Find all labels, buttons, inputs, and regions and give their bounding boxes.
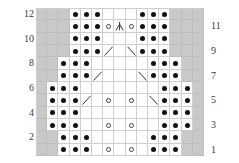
purl-dot-icon — [162, 98, 167, 103]
purl-dot-icon — [50, 123, 55, 128]
purl-dot-icon — [84, 147, 89, 152]
chart-cell-2-10 — [137, 131, 148, 143]
dot-symbol — [58, 57, 69, 69]
dot-symbol — [58, 70, 69, 82]
purl-dot-icon — [173, 61, 178, 66]
dot-symbol — [70, 119, 81, 131]
purl-dot-icon — [84, 61, 89, 66]
dot-symbol — [159, 144, 170, 156]
purl-dot-icon — [173, 147, 178, 152]
chart-cell-12-9 — [126, 8, 137, 20]
chart-cell-6-9 — [126, 82, 137, 94]
ring-symbol — [126, 20, 137, 32]
chart-cell-4-7 — [103, 107, 114, 119]
chart-cell-1-6 — [92, 144, 103, 156]
dot-symbol — [81, 45, 92, 57]
purl-dot-icon — [162, 12, 167, 17]
purl-dot-icon — [173, 110, 178, 115]
ring-symbol — [126, 119, 137, 131]
dot-symbol — [81, 144, 92, 156]
purl-dot-icon — [73, 49, 78, 54]
chart-cell-1-2 — [47, 144, 58, 156]
chart-cell-6-8 — [114, 82, 125, 94]
chart-cell-10-9 — [126, 33, 137, 45]
dot-symbol — [148, 144, 159, 156]
dot-symbol — [70, 107, 81, 119]
chart-cell-9-8 — [114, 45, 125, 57]
dot-symbol — [159, 70, 170, 82]
chart-cell-12-13 — [170, 8, 181, 20]
dot-symbol — [70, 82, 81, 94]
purl-dot-icon — [140, 12, 145, 17]
dot-symbol — [47, 82, 58, 94]
row-label-left-8: 8 — [29, 57, 34, 69]
purl-dot-icon — [73, 123, 78, 128]
purl-dot-icon — [151, 73, 156, 78]
purl-dot-icon — [185, 110, 190, 115]
chart-cell-2-2 — [47, 131, 58, 143]
dot-symbol — [70, 94, 81, 106]
purl-dot-icon — [140, 49, 145, 54]
purl-dot-icon — [151, 147, 156, 152]
chart-cell-7-1 — [36, 70, 47, 82]
chart-cell-8-2 — [47, 57, 58, 69]
dot-symbol — [92, 33, 103, 45]
dot-symbol — [81, 131, 92, 143]
chart-cell-4-10 — [137, 107, 148, 119]
diag-left-symbol — [137, 70, 148, 82]
purl-dot-icon — [73, 110, 78, 115]
dot-symbol — [159, 82, 170, 94]
chart-cell-9-15 — [193, 45, 204, 57]
chart-cell-6-7 — [103, 82, 114, 94]
chart-cell-8-9 — [126, 57, 137, 69]
purl-dot-icon — [84, 73, 89, 78]
dot-symbol — [81, 70, 92, 82]
row-label-left-4: 4 — [29, 107, 34, 119]
chart-cell-2-9 — [126, 131, 137, 143]
purl-dot-icon — [61, 135, 66, 140]
dot-symbol — [159, 33, 170, 45]
purl-dot-icon — [151, 12, 156, 17]
purl-dot-icon — [84, 12, 89, 17]
purl-dot-icon — [61, 73, 66, 78]
chart-cell-8-15 — [193, 57, 204, 69]
dot-symbol — [137, 33, 148, 45]
ring-symbol — [103, 20, 114, 32]
chart-cell-9-1 — [36, 45, 47, 57]
dot-symbol — [92, 45, 103, 57]
dot-symbol — [58, 131, 69, 143]
chart-cell-3-15 — [193, 119, 204, 131]
purl-dot-icon — [140, 24, 145, 29]
purl-dot-icon — [173, 135, 178, 140]
yarn-over-ring-icon — [106, 123, 111, 128]
chart-cell-8-8 — [114, 57, 125, 69]
chart-cell-5-6 — [92, 94, 103, 106]
chart-cell-3-8 — [114, 119, 125, 131]
diag-left-symbol — [148, 94, 159, 106]
yarn-over-ring-icon — [106, 24, 111, 29]
chart-cell-11-3 — [58, 20, 69, 32]
purl-dot-icon — [151, 36, 156, 41]
dot-symbol — [159, 107, 170, 119]
purl-dot-icon — [61, 110, 66, 115]
chart-cell-7-14 — [182, 70, 193, 82]
chart-cell-10-3 — [58, 33, 69, 45]
chart-cell-2-15 — [193, 131, 204, 143]
chart-cell-12-8 — [114, 8, 125, 20]
chart-cell-10-1 — [36, 33, 47, 45]
row-label-left-6: 6 — [29, 82, 34, 94]
dot-symbol — [170, 144, 181, 156]
chart-cell-6-10 — [137, 82, 148, 94]
chart-cell-4-9 — [126, 107, 137, 119]
purl-dot-icon — [84, 49, 89, 54]
dot-symbol — [70, 144, 81, 156]
dot-symbol — [81, 8, 92, 20]
dot-symbol — [137, 8, 148, 20]
dot-symbol — [137, 20, 148, 32]
purl-dot-icon — [84, 36, 89, 41]
chart-cell-4-1 — [36, 107, 47, 119]
chart-cell-11-14 — [182, 20, 193, 32]
dot-symbol — [170, 57, 181, 69]
dot-symbol — [170, 94, 181, 106]
chart-cell-7-9 — [126, 70, 137, 82]
